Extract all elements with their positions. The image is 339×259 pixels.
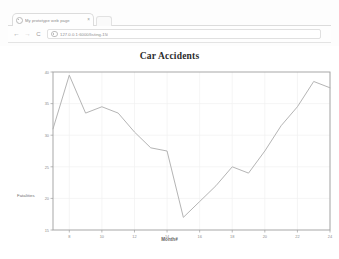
back-icon[interactable]: ← (11, 29, 22, 40)
browser-toolbar: ← → C 127.0.0.1:6000/listing-15/ (8, 26, 331, 43)
globe-icon (16, 17, 23, 24)
x-tick-label: 18 (226, 234, 238, 239)
x-tick-label: 12 (128, 234, 140, 239)
tab-title: My prototype web page (25, 18, 85, 23)
browser-tab[interactable]: My prototype web page × (12, 13, 94, 26)
y-tick-label: 25 (37, 165, 49, 170)
chart-canvas (0, 46, 339, 259)
x-tick-label: 14 (161, 234, 173, 239)
new-tab-icon[interactable] (96, 16, 112, 26)
url-text: 127.0.0.1:6000/listing-15/ (60, 32, 108, 37)
info-icon[interactable] (51, 31, 58, 38)
y-tick-label: 20 (37, 196, 49, 201)
x-tick-label: 22 (291, 234, 303, 239)
x-tick-label: 10 (96, 234, 108, 239)
line-chart: Fatalities Month# 1520253035408101214161… (0, 46, 339, 259)
x-tick-label: 8 (63, 234, 75, 239)
forward-icon[interactable]: → (22, 29, 33, 40)
close-icon[interactable]: × (87, 18, 90, 23)
address-bar[interactable]: 127.0.0.1:6000/listing-15/ (47, 29, 321, 39)
page-content: Car Accidents Fatalities Month# 15202530… (0, 46, 339, 259)
y-tick-label: 30 (37, 133, 49, 138)
tab-strip: My prototype web page × (8, 12, 331, 26)
x-tick-label: 20 (259, 234, 271, 239)
x-tick-label: 16 (194, 234, 206, 239)
y-tick-label: 40 (37, 70, 49, 75)
browser-chrome: My prototype web page × ← → C 127.0.0.1:… (8, 12, 331, 44)
browser-window: My prototype web page × ← → C 127.0.0.1:… (0, 0, 339, 259)
y-tick-label: 35 (37, 101, 49, 106)
x-tick-label: 24 (324, 234, 336, 239)
reload-icon[interactable]: C (33, 29, 44, 40)
y-tick-label: 15 (37, 228, 49, 233)
